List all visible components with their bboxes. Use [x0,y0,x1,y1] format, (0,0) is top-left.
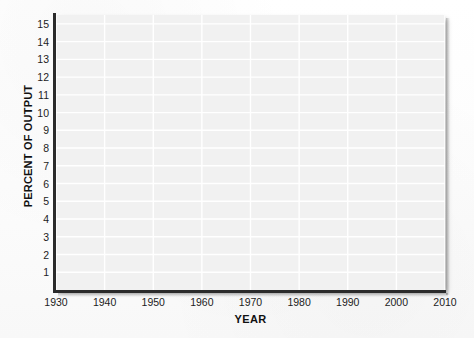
blank-chart-figure: 151413121110987654321 193019401950196019… [0,0,474,338]
gridlines [56,15,445,290]
y-axis-tick-label: 15 [5,19,49,29]
y-axis-line [53,13,56,293]
y-axis-tick-label: 1 [5,267,49,277]
y-axis-tick-label: 13 [5,54,49,64]
plot-shadow-right [446,18,450,295]
y-axis-title: PERCENT OF OUTPUT [22,66,34,226]
y-axis-tick-label: 3 [5,232,49,242]
y-axis-tick-label: 14 [5,37,49,47]
y-axis-tick-label: 2 [5,250,49,260]
x-axis-title: YEAR [56,313,445,325]
x-axis-tick-labels: 193019401950196019701980199020002010 [0,296,474,312]
plot-area [56,15,445,290]
x-axis-tick-label: 2010 [415,296,474,309]
